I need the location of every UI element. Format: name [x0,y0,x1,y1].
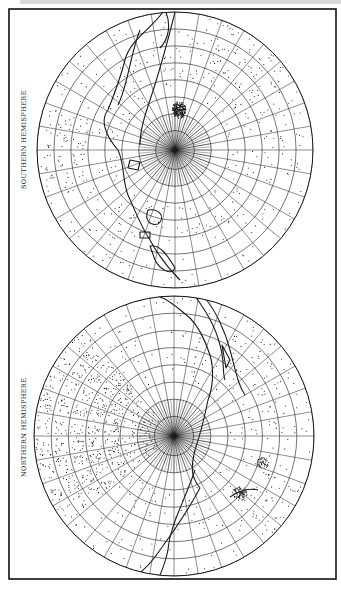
hemisphere-maps [0,0,341,592]
map-figure: SOUTHERN HEMISPHERE NORTHERN HEMISPHERE [0,0,341,592]
southern-hemisphere-map [37,10,313,288]
southern-hemisphere-label: SOUTHERN HEMISPHERE [20,90,28,189]
northern-hemisphere-map [34,293,314,580]
scan-shadow [20,0,341,4]
northern-hemisphere-label: NORTHERN HEMISPHERE [20,378,28,477]
map-frame [9,9,336,579]
